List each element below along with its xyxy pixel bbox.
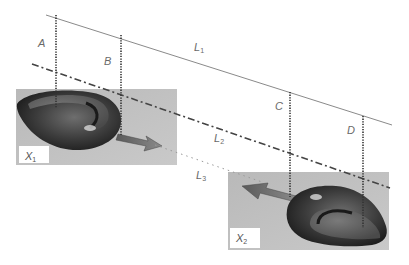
photo-label-x2-sub: 2	[243, 238, 247, 245]
line-label-l1: L1	[194, 42, 204, 54]
photo-label-x1-sub: 1	[32, 156, 36, 163]
photo-label-x2: X2	[230, 228, 260, 248]
line-label-l2-sub: 2	[220, 138, 224, 145]
line-label-l3: L3	[196, 170, 206, 182]
photo-label-x1: X1	[19, 146, 49, 163]
marker-label-b: B	[104, 56, 111, 67]
diagram: A B C D L1 L2 L3 X1 X2	[0, 0, 409, 265]
marker-label-d: D	[347, 125, 355, 136]
marker-label-a: A	[38, 38, 45, 49]
line-label-l1-sub: 1	[200, 47, 204, 54]
line-label-l3-sub: 3	[202, 175, 206, 182]
line-label-l2: L2	[214, 133, 224, 145]
marker-label-c: C	[275, 101, 283, 112]
